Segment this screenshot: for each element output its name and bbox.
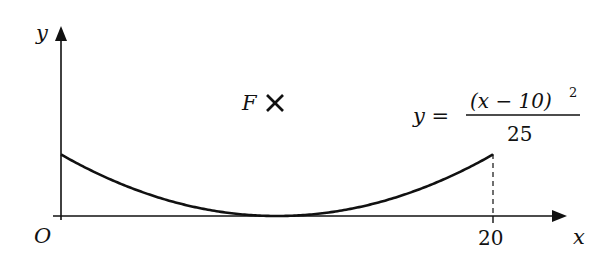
equation-lhs: y = [412,104,449,128]
parabola-diagram: y x O 20 F y = (x − 10) 2 25 [0,0,604,261]
origin-label: O [34,224,51,248]
y-axis-arrow-icon [55,26,67,41]
tick-label-20: 20 [478,226,503,250]
x-axis-label: x [573,225,585,249]
x-axis-arrow-icon [552,210,567,222]
y-axis-label: y [35,21,49,45]
parabola-curve [61,155,493,217]
equation-denominator: 25 [507,122,532,146]
focus-label: F [241,91,258,115]
equation-exponent: 2 [569,85,577,100]
cross-icon [267,95,283,111]
equation-numerator: (x − 10) [470,89,552,113]
